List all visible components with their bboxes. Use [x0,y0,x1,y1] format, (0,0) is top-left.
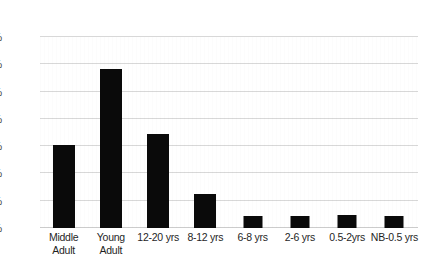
y-tick-label-20%: 20% [0,113,2,125]
bar-slot [324,37,371,228]
bar-chart: 0%5%10%15%20%25%30%35% Middle AdultYoung… [0,0,426,272]
x-axis-category-labels: Middle AdultYoung Adult12-20 yrs8-12 yrs… [40,231,418,272]
bar-slot [40,37,87,228]
bar-slot [229,37,276,228]
bar [338,215,357,228]
y-tick-label-30%: 30% [0,58,2,70]
bar-slot [135,37,182,228]
bar [194,194,216,228]
bar [290,216,309,228]
bar [147,134,169,228]
x-axis-label: NB-0.5 yrs [365,231,424,244]
bar [385,216,404,228]
bar-slot [371,37,418,228]
bar [100,69,122,228]
bars-group [40,37,418,228]
y-tick-label-5%: 5% [0,195,2,207]
bar-slot [87,37,134,228]
bar-slot [182,37,229,228]
y-tick-label-0%: 0% [0,222,2,234]
y-tick-label-25%: 25% [0,86,2,98]
bar [243,216,262,228]
y-tick-label-35%: 35% [0,31,2,43]
bar-slot [276,37,323,228]
bar [53,145,75,228]
y-tick-label-15%: 15% [0,140,2,152]
y-tick-label-10%: 10% [0,167,2,179]
